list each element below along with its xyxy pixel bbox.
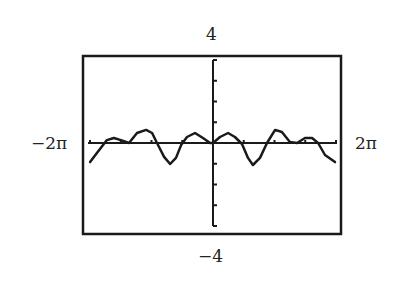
y-max-label: 4	[206, 26, 217, 43]
x-max-label: 2π	[355, 135, 377, 152]
y-min-label: −4	[198, 248, 223, 265]
x-min-label: −2π	[31, 135, 67, 152]
